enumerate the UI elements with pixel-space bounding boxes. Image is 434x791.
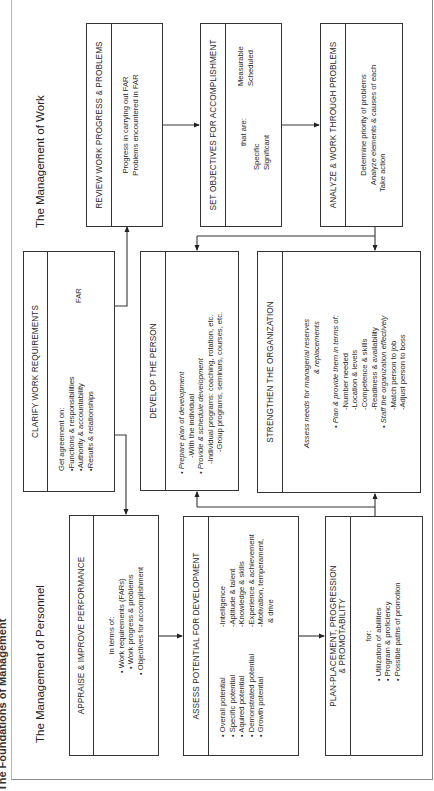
text-line: Specific [252, 135, 262, 170]
text-line: • Objectives for accomplishment [136, 516, 146, 755]
text-line: -Intelligence [218, 534, 228, 627]
text-line: -Experience & achievement [247, 534, 257, 627]
text-line: -Readiness & availability [370, 252, 380, 448]
text-line: -Group programs, seminars, courses, etc. [215, 252, 225, 474]
text-line: Problems encountered in FAR [131, 24, 141, 226]
box-clarify-work-requirements: CLARIFY WORK REQUIREMENTS Get agreement … [23, 251, 115, 492]
far-label: FAR [74, 288, 83, 303]
text-line: Scheduled [246, 46, 256, 86]
text-intro: in terms of: [107, 516, 117, 755]
text-line: •Results & relationships [86, 252, 96, 471]
box-review-work-progress: REVIEW WORK PROGRESS & PROBLEMS Progress… [86, 23, 163, 227]
text-line: • Provide & schedule development [196, 252, 206, 474]
text-intro: that are: [239, 118, 249, 146]
box-appraise-performance: APPRAISE & IMPROVE PERFORMANCE in terms … [69, 515, 159, 756]
box-develop-person: DEVELOP THE PERSON • Prepare plan of dev… [140, 251, 239, 491]
box-title: STRENGTHEN THE ORGANIZATION [258, 252, 283, 492]
text-column-right: -Intelligence -Aptitude & talent -Knowle… [218, 534, 276, 627]
text-line: -Adjust person to boss [398, 252, 408, 448]
box-set-objectives: SET OBJECTIVES FOR ACCOMPLISHMENT that a… [200, 23, 282, 227]
text-line: & drive [266, 534, 276, 627]
text-line: -Knowledge & skills [237, 534, 247, 627]
text-line: • Plan & provide them in terms of: [331, 252, 341, 448]
box-body: • Overall potential • Specific potential… [208, 517, 298, 755]
text-line: -Motivation, temperament, [256, 534, 266, 627]
text-line: -Match person to job [389, 252, 399, 448]
box-title: ASSESS POTENTIAL FOR DEVELOPMENT [184, 517, 209, 755]
text-line: •Functions & responsibilities [67, 252, 77, 471]
text-line: • Growth potential [256, 654, 266, 737]
text-line: • Utilization of abilities [374, 517, 384, 755]
box-title: DEVELOP THE PERSON [141, 252, 166, 490]
text-line: -Individual programs: coaching, rotation… [206, 252, 216, 474]
box-body: • Prepare plan of development -With the … [165, 252, 238, 490]
box-title: CLARIFY WORK REQUIREMENTS [24, 252, 48, 491]
text-line: Analyze elements & causes of each [369, 24, 379, 226]
box-title-line: PLAN-PLACEMENT, PROGRESSION [329, 565, 338, 706]
box-body: Assess needs for managerial reserves & r… [282, 252, 420, 492]
box-strengthen-organization: STRENGTHEN THE ORGANIZATION Assess needs… [257, 251, 421, 493]
rotated-diagram-canvas: The Foundations of Management The Manage… [0, 0, 434, 791]
box-body: for: • Utilization of abilities • Progra… [350, 517, 422, 755]
text-line: Determine priority of problems [359, 24, 369, 226]
text-column-right: Measurable Scheduled [236, 46, 255, 86]
box-title: SET OBJECTIVES FOR ACCOMPLISHMENT [201, 24, 226, 226]
text-line: Progress in carrying out FAR [121, 24, 131, 226]
text-line: • Possible paths of promotion [393, 517, 403, 755]
text-line: •Authority & accountability [76, 252, 86, 471]
text-line: • Aquired potential [237, 654, 247, 737]
text-line: -With the individual [187, 252, 197, 474]
text-intro: for: [364, 517, 374, 755]
box-body: Determine priority of problems Analyze e… [345, 24, 402, 226]
box-analyze-problems: ANALYZE & WORK THROUGH PROBLEMS Determin… [320, 23, 403, 227]
box-assess-potential: ASSESS POTENTIAL FOR DEVELOPMENT • Overa… [183, 516, 299, 756]
box-body: Progress in carrying out FAR Problems en… [111, 24, 162, 226]
box-title: ANALYZE & WORK THROUGH PROBLEMS [321, 24, 346, 226]
text-line: -Aptitude & talent [228, 534, 238, 627]
box-title: APPRAISE & IMPROVE PERFORMANCE [70, 516, 94, 755]
text-line: • Prepare plan of development [177, 252, 187, 474]
box-title-line: & PROMOTABILITY [338, 598, 347, 673]
text-line: -Competence & skills [360, 252, 370, 448]
text-line: • Work requirements (FARs) [117, 516, 127, 755]
box-plan-placement: PLAN-PLACEMENT, PROGRESSION & PROMOTABIL… [325, 516, 423, 756]
text-line: -Number needed [341, 252, 351, 448]
text-intro: Get agreement on: [57, 252, 67, 471]
text-line: • Work progress & problems [126, 516, 136, 755]
text-line: • Overall potential [218, 654, 228, 737]
text-line: -Location & levels [350, 252, 360, 448]
text-line: Measurable [236, 46, 246, 86]
text-line: • Staff the organization effectively [379, 252, 389, 448]
text-column-left: Specific Significant [252, 135, 271, 170]
text-line: • Program & proficiency [383, 517, 393, 755]
text-line: Significant [262, 135, 272, 170]
box-body: that are: Specific Significant Measurabl… [225, 24, 281, 226]
box-title: REVIEW WORK PROGRESS & PROBLEMS [87, 24, 112, 226]
text-column-left: • Overall potential • Specific potential… [218, 654, 266, 737]
text-line: & replacements [312, 252, 322, 448]
text-line: • Demonstrated potential [247, 654, 257, 737]
text-line: • Specific potential [228, 654, 238, 737]
text-line: Assess needs for managerial reserves [302, 252, 312, 448]
box-body: in terms of: • Work requirements (FARs) … [93, 516, 158, 755]
text-line: Take action [378, 24, 388, 226]
box-title: PLAN-PLACEMENT, PROGRESSION & PROMOTABIL… [326, 517, 351, 755]
